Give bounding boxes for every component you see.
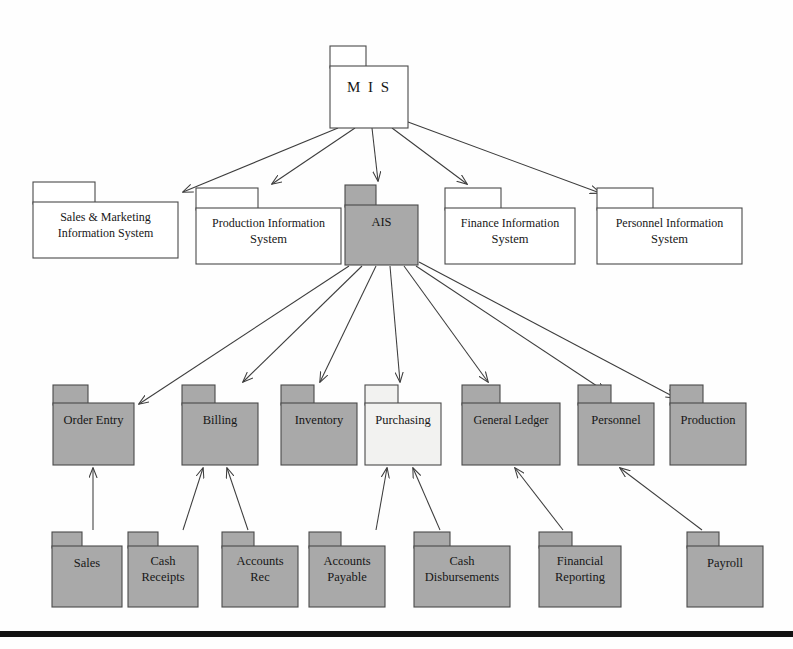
folder-tab-personnel-is (597, 188, 653, 210)
level-group-ais-subsystems: Order EntryBillingInventoryPurchasingGen… (53, 385, 746, 465)
folder-tab-production-is (196, 188, 258, 210)
node-label-accounts-rec: Rec (250, 570, 270, 584)
node-label-finance-is: Finance Information (461, 216, 559, 230)
folder-tab-finance-is (445, 188, 501, 210)
node-personnel[interactable]: Personnel (578, 385, 654, 465)
node-label-accounts-rec: Accounts (236, 554, 283, 568)
node-label-sales-marketing-is: Sales & Marketing (60, 210, 151, 224)
node-label-mis: M I S (347, 79, 391, 95)
node-label-finance-is: System (492, 232, 529, 246)
node-production-is[interactable]: Production InformationSystem (196, 188, 341, 264)
node-production[interactable]: Production (670, 385, 746, 465)
connector-mis-to-sales-marketing-is (183, 128, 338, 192)
node-label-cash-receipts: Receipts (141, 570, 184, 584)
connector-financial-reporting-to-general-ledger (515, 468, 563, 530)
level-group-root: M I S (330, 46, 408, 128)
connector-ais-to-purchasing (390, 266, 400, 382)
node-financial-reporting[interactable]: FinancialReporting (539, 532, 621, 607)
node-label-production: Production (681, 413, 737, 427)
node-label-production-is: System (250, 232, 287, 246)
node-label-sales-marketing-is: Information System (58, 226, 154, 240)
folder-tab-billing (182, 385, 215, 405)
connector-ais-to-production (419, 262, 676, 398)
folder-tab-personnel (578, 385, 611, 405)
node-ais[interactable]: AIS (345, 185, 418, 265)
node-label-purchasing: Purchasing (375, 413, 431, 427)
connector-payroll-to-personnel (620, 468, 702, 530)
baseline-rule-layer (0, 631, 793, 637)
node-layer: M I SSales & MarketingInformation System… (33, 46, 763, 607)
connector-layer (93, 122, 702, 530)
node-cash-disbursements[interactable]: CashDisbursements (414, 532, 510, 607)
node-label-sales: Sales (74, 556, 101, 570)
folder-tab-mis (330, 46, 366, 68)
node-label-accounts-payable: Accounts (323, 554, 370, 568)
node-label-financial-reporting: Reporting (555, 570, 606, 584)
connector-ais-to-general-ledger (404, 266, 488, 382)
node-sales-marketing-is[interactable]: Sales & MarketingInformation System (33, 182, 178, 258)
level-group-information-systems: Sales & MarketingInformation SystemProdu… (33, 182, 742, 265)
node-label-production-is: Production Information (212, 216, 325, 230)
node-label-personnel-is: Personnel Information (616, 216, 724, 230)
bottom-divider-rule (0, 631, 793, 637)
node-label-order-entry: Order Entry (63, 413, 124, 427)
connector-mis-to-finance-is (392, 128, 467, 184)
node-label-payroll: Payroll (707, 556, 744, 570)
node-general-ledger[interactable]: General Ledger (462, 385, 560, 465)
node-finance-is[interactable]: Finance InformationSystem (445, 188, 575, 264)
folder-tab-general-ledger (462, 385, 500, 405)
connector-mis-to-ais (372, 128, 378, 181)
node-accounts-rec[interactable]: AccountsRec (222, 532, 298, 607)
node-cash-receipts[interactable]: CashReceipts (128, 532, 198, 607)
node-billing[interactable]: Billing (182, 385, 258, 465)
node-label-inventory: Inventory (295, 413, 344, 427)
connector-accounts-rec-to-billing (227, 468, 248, 530)
connector-accounts-payable-to-purchasing (376, 468, 387, 530)
node-label-personnel: Personnel (591, 413, 641, 427)
node-label-personnel-is: System (651, 232, 688, 246)
connector-cash-receipts-to-billing (183, 468, 203, 530)
node-mis[interactable]: M I S (330, 46, 408, 128)
connector-mis-to-personnel-is (408, 122, 600, 193)
node-inventory[interactable]: Inventory (281, 385, 357, 465)
node-label-cash-disbursements: Disbursements (425, 570, 499, 584)
node-payroll[interactable]: Payroll (687, 532, 763, 607)
node-label-billing: Billing (203, 413, 238, 427)
node-accounts-payable[interactable]: AccountsPayable (309, 532, 385, 607)
folder-tab-sales-marketing-is (33, 182, 95, 204)
folder-tab-ais (345, 185, 376, 207)
folder-tab-order-entry (53, 385, 88, 405)
node-label-financial-reporting: Financial (557, 554, 604, 568)
node-personnel-is[interactable]: Personnel InformationSystem (597, 188, 742, 264)
level-group-transaction-cycles: SalesCashReceiptsAccountsRecAccountsPaya… (52, 532, 763, 607)
node-label-ais: AIS (371, 215, 391, 229)
connector-cash-disbursements-to-purchasing (413, 468, 440, 530)
node-purchasing[interactable]: Purchasing (365, 385, 441, 465)
folder-tab-inventory (281, 385, 314, 405)
node-label-cash-disbursements: Cash (450, 554, 476, 568)
connector-mis-to-production-is (272, 128, 355, 184)
connector-ais-to-personnel (416, 266, 606, 392)
node-label-cash-receipts: Cash (151, 554, 177, 568)
folder-body-mis (330, 66, 408, 128)
connector-ais-to-order-entry (139, 266, 349, 404)
diagram-canvas: M I SSales & MarketingInformation System… (0, 0, 793, 649)
folder-tab-purchasing (365, 385, 398, 405)
node-label-general-ledger: General Ledger (474, 413, 549, 427)
mis-ais-hierarchy-diagram: M I SSales & MarketingInformation System… (0, 0, 793, 649)
node-label-accounts-payable: Payable (327, 570, 367, 584)
connector-ais-to-inventory (320, 266, 376, 382)
node-order-entry[interactable]: Order Entry (53, 385, 134, 465)
folder-tab-production (670, 385, 703, 405)
node-sales[interactable]: Sales (52, 532, 122, 607)
